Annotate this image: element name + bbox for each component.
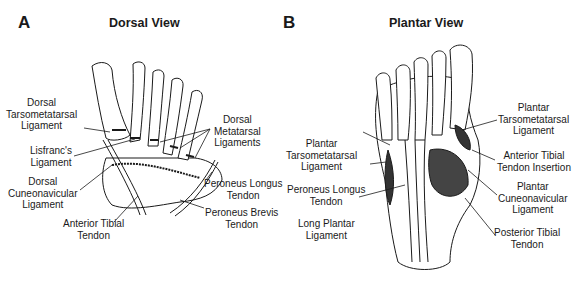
label-line: Plantar xyxy=(498,102,569,114)
label-long-plantar-ligament: Long Plantar Ligament xyxy=(298,218,355,241)
label-anterior-tibial-tendon: Anterior Tibial Tendon xyxy=(63,218,124,241)
label-anterior-tibial-tendon-insertion: Anterior Tibial Tendon Insertion xyxy=(497,150,571,173)
label-line: Tendon xyxy=(205,219,278,231)
label-dorsal-cuneonavicular-ligament: Dorsal Cuneonavicular Ligament xyxy=(8,176,78,211)
label-line: Cuneonavicular xyxy=(498,193,568,205)
label-plantar-cuneonavicular-ligament: Plantar Cuneonavicular Ligament xyxy=(498,181,568,216)
label-line: Dorsal xyxy=(8,176,78,188)
dorsal-foot-drawing xyxy=(92,62,222,216)
label-line: Dorsal xyxy=(214,114,261,126)
label-peroneus-longus-tendon-a: Peroneus Longus Tendon xyxy=(204,178,282,201)
label-line: Tendon xyxy=(287,196,365,208)
label-line: Ligament xyxy=(298,230,355,242)
plantar-foot-drawing xyxy=(376,45,480,269)
label-line: Lisfranc's xyxy=(30,145,72,157)
label-line: Ligament xyxy=(6,120,77,132)
label-lisfranc-ligament: Lisfranc's Ligament xyxy=(30,145,72,168)
label-line: Long Plantar xyxy=(298,218,355,230)
label-line: Posterior Tibial xyxy=(494,227,560,239)
label-line: Plantar xyxy=(498,181,568,193)
label-line: Tendon xyxy=(63,230,124,242)
label-line: Tarsometatarsal xyxy=(286,150,357,162)
label-line: Tarsometatarsal xyxy=(6,109,77,121)
label-line: Tendon Insertion xyxy=(497,162,571,174)
label-line: Peroneus Brevis xyxy=(205,207,278,219)
label-peroneus-longus-tendon-b: Peroneus Longus Tendon xyxy=(287,184,365,207)
label-posterior-tibial-tendon: Posterior Tibial Tendon xyxy=(494,227,560,250)
label-peroneus-brevis-tendon: Peroneus Brevis Tendon xyxy=(205,207,278,230)
label-plantar-tarsometatarsal-ligament-right: Plantar Tarsometatarsal Ligament xyxy=(498,102,569,137)
label-line: Ligament xyxy=(30,157,72,169)
label-line: Anterior Tibial xyxy=(63,218,124,230)
label-line: Ligament xyxy=(8,199,78,211)
label-line: Tendon xyxy=(494,239,560,251)
label-line: Ligament xyxy=(498,125,569,137)
label-line: Plantar xyxy=(286,138,357,150)
label-line: Dorsal xyxy=(6,97,77,109)
label-line: Ligament xyxy=(286,161,357,173)
label-line: Anterior Tibial xyxy=(497,150,571,162)
label-line: Peroneus Longus xyxy=(287,184,365,196)
label-line: Tendon xyxy=(204,190,282,202)
label-plantar-tarsometatarsal-ligament-left: Plantar Tarsometatarsal Ligament xyxy=(286,138,357,173)
label-line: Ligament xyxy=(498,204,568,216)
label-dorsal-metatarsal-ligaments: Dorsal Metatarsal Ligaments xyxy=(214,114,261,149)
label-dorsal-tarsometatarsal-ligament: Dorsal Tarsometatarsal Ligament xyxy=(6,97,77,132)
label-line: Cuneonavicular xyxy=(8,188,78,200)
label-line: Peroneus Longus xyxy=(204,178,282,190)
label-line: Ligaments xyxy=(214,137,261,149)
label-line: Tarsometatarsal xyxy=(498,114,569,126)
label-line: Metatarsal xyxy=(214,126,261,138)
